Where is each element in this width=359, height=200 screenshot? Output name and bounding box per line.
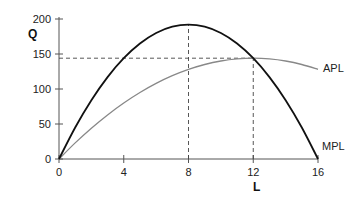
dashed-guides [59,25,253,159]
x-tick-label: 16 [312,166,324,178]
x-tick-label: 8 [185,166,191,178]
y-tick-label: 100 [33,83,51,95]
y-tick-label: 0 [45,153,51,165]
y-axis-label: Q [28,27,37,41]
x-tick-label: 4 [121,166,127,178]
x-ticks: 0481216 [56,155,324,178]
apl-label: APL [323,62,344,74]
x-tick-label: 12 [247,166,259,178]
x-tick-label: 0 [56,166,62,178]
y-tick-label: 150 [33,48,51,60]
chart-canvas: 050100150200 0481216 Q L APL MPL [0,0,359,200]
y-tick-label: 200 [33,13,51,25]
y-tick-label: 50 [39,118,51,130]
x-axis-label: L [253,180,260,194]
mpl-label: MPL [322,140,345,152]
